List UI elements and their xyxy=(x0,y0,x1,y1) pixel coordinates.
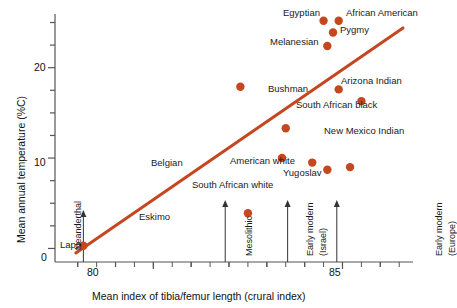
point-label-african-american: African American xyxy=(346,8,418,18)
data-point-marker xyxy=(308,158,316,166)
point-label-melanesian: Melanesian xyxy=(270,37,319,47)
annotation-label-mesolithic: Mesolithic xyxy=(245,216,254,256)
point-label-bushman: Bushman xyxy=(268,84,308,94)
data-point-marker xyxy=(323,42,331,50)
annotation-label-neanderthal: Neanderthal xyxy=(74,201,83,250)
axes xyxy=(48,14,413,269)
point-label-belgian: Belgian xyxy=(151,158,183,168)
data-point-marker xyxy=(346,163,354,171)
x-tick-label-85: 85 xyxy=(329,267,341,278)
y-tick-label-10: 10 xyxy=(34,157,46,168)
annotation-label-early-modern-israel-line2: (Israel) xyxy=(319,228,328,256)
point-label-south-african-black: South African black xyxy=(296,100,377,110)
point-label-new-mexico-indian: New Mexico Indian xyxy=(324,126,404,136)
point-label-south-african-white: South African white xyxy=(192,180,273,190)
point-label-american-white: American white xyxy=(230,156,295,166)
y-axis-title: Mean annual temperature (%C) xyxy=(16,96,27,243)
data-point-marker xyxy=(282,124,290,132)
data-points xyxy=(79,17,365,250)
data-point-marker xyxy=(329,28,337,36)
data-point-marker xyxy=(334,85,342,93)
data-point-marker xyxy=(319,17,327,25)
point-label-egyptian: Egyptian xyxy=(283,8,320,18)
annotation-arrows xyxy=(80,200,339,262)
point-label-pygmy: Pygmy xyxy=(340,25,369,35)
x-tick-label-80: 80 xyxy=(87,267,99,278)
point-label-yugoslav: Yugoslav xyxy=(283,168,322,178)
annotation-label-early-modern-europe-line2: (Europe) xyxy=(448,221,457,256)
annotation-label-early-modern-israel-line1: Early modern xyxy=(306,202,315,256)
point-label-eskimo: Eskimo xyxy=(139,212,170,222)
data-point-marker xyxy=(236,82,244,90)
point-label-arizona-indian: Arizona Indian xyxy=(341,76,402,86)
y-tick-label-0: 0 xyxy=(41,252,47,263)
annotation-label-early-modern-europe-line1: Early modern xyxy=(435,202,444,256)
x-axis-title: Mean index of tibia/femur length (crural… xyxy=(92,291,306,302)
data-point-marker xyxy=(323,166,331,174)
trend-line xyxy=(76,28,403,253)
y-tick-label-20: 20 xyxy=(34,62,46,73)
